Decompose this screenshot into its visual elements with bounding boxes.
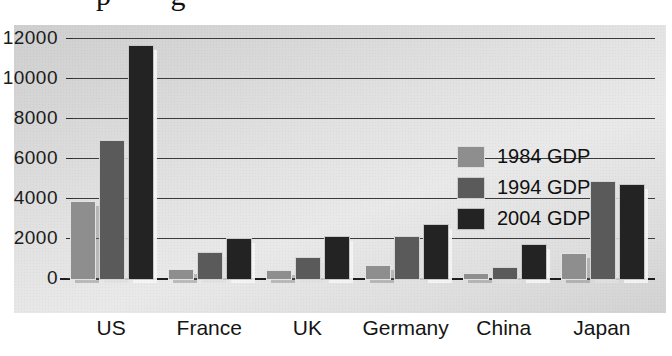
bar-group: [262, 38, 360, 278]
bar: [226, 238, 250, 278]
bar-body: [168, 269, 194, 280]
bar: [365, 265, 389, 278]
x-axis-labels: USFranceUKGermanyChinaJapan: [14, 316, 666, 348]
bar-body: [423, 224, 449, 280]
legend-label: 1984 GDP: [497, 145, 590, 168]
y-axis-tick-label: 0: [47, 267, 58, 289]
clipped-title-text: p g: [96, 0, 212, 12]
y-axis-tick-label: 4000: [14, 187, 58, 209]
bar-body: [226, 238, 252, 280]
legend-swatch: [457, 208, 485, 230]
y-axis-tick-mark: [66, 198, 73, 199]
x-axis-label: UK: [293, 316, 322, 340]
legend-label: 1994 GDP: [497, 176, 590, 199]
legend-item: 1984 GDP: [457, 143, 590, 170]
y-axis-tick-mark: [66, 78, 73, 79]
y-axis-tick-label: 8000: [14, 107, 58, 129]
bar: [463, 273, 487, 278]
bar-body: [365, 265, 391, 280]
bar: [492, 267, 516, 278]
legend-swatch: [457, 146, 485, 168]
y-axis-tick-label: 6000: [14, 147, 58, 169]
x-axis-label: France: [177, 316, 242, 340]
bar-body: [70, 201, 96, 280]
legend-item: 1994 GDP: [457, 174, 590, 201]
bar-body: [521, 244, 547, 280]
bar: [295, 257, 319, 278]
bar-body: [266, 270, 292, 280]
y-axis: 020004000600080001000012000: [14, 38, 66, 278]
bar: [197, 252, 221, 278]
y-axis-tick-mark: [66, 158, 73, 159]
bar-body: [394, 236, 420, 280]
x-axis-label: Germany: [362, 316, 448, 340]
y-axis-tick-label: 10000: [3, 67, 58, 89]
x-axis-label: US: [96, 316, 125, 340]
bar-body: [561, 253, 587, 280]
bar: [70, 201, 94, 278]
bar-body: [324, 236, 350, 280]
clipped-title: p g: [0, 0, 672, 18]
bar-body: [99, 140, 125, 280]
bar-body: [295, 257, 321, 280]
y-axis-tick-mark: [66, 38, 73, 39]
bar-chart: 020004000600080001000012000 1984 GDP1994…: [14, 25, 666, 313]
legend-label: 2004 GDP: [497, 207, 590, 230]
y-axis-tick-mark: [66, 118, 73, 119]
chart-legend: 1984 GDP1994 GDP2004 GDP: [457, 143, 590, 236]
bar: [168, 269, 192, 278]
legend-swatch: [457, 177, 485, 199]
bar: [128, 45, 152, 278]
bar-group: [66, 38, 164, 278]
bar-group: [164, 38, 262, 278]
bar-body: [463, 273, 489, 280]
y-axis-tick-label: 12000: [3, 27, 58, 49]
bar-body: [492, 267, 518, 280]
bar: [394, 236, 418, 278]
bar-body: [619, 184, 645, 280]
x-axis-label: China: [476, 316, 531, 340]
bar-body: [128, 45, 154, 280]
bar-body: [197, 252, 223, 280]
bar: [590, 181, 614, 278]
bar-group: [361, 38, 459, 278]
legend-item: 2004 GDP: [457, 205, 590, 232]
x-axis-label: Japan: [573, 316, 630, 340]
bar: [521, 244, 545, 278]
bar: [619, 184, 643, 278]
y-axis-tick-label: 2000: [14, 227, 58, 249]
bar: [324, 236, 348, 278]
bar: [423, 224, 447, 278]
bar: [561, 253, 585, 278]
bar: [266, 270, 290, 278]
bar: [99, 140, 123, 278]
bar-body: [590, 181, 616, 280]
